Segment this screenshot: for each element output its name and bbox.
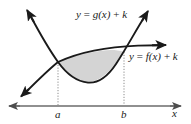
- curve-label-g: y = g(x) + k: [76, 9, 127, 20]
- curve-label-f: y = f(x) + k: [129, 51, 178, 62]
- curve-g-arrow-upper-left: [27, 10, 34, 22]
- x-axis-name-label: x: [172, 108, 177, 119]
- x-axis-tick-label-a: a: [55, 109, 61, 120]
- curve-f-arrow-lower-left: [21, 89, 29, 97]
- curve-g-arrow-upper-right: [142, 11, 148, 21]
- x-axis-tick-label-b: b: [121, 109, 127, 120]
- math-figure: y = g(x) + k y = f(x) + k a b x: [0, 0, 191, 124]
